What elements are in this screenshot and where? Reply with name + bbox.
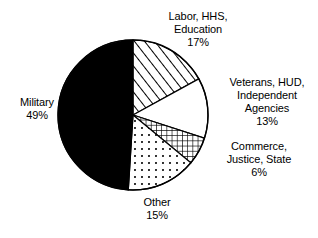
label-percent: 17% <box>152 36 244 49</box>
label-percent: 15% <box>126 209 188 222</box>
slice-label-labor-hhs-education: Labor, HHS, Education 17% <box>152 10 244 49</box>
slice-label-other: Other 15% <box>126 196 188 222</box>
slice-label-military: Military 49% <box>6 96 68 122</box>
slice-label-veterans-hud-independent-agencies: Veterans, HUD, Independent Agencies 13% <box>218 76 316 128</box>
label-percent: 6% <box>206 166 312 179</box>
label-line: Military <box>6 96 68 109</box>
label-line: Independent <box>218 89 316 102</box>
label-line: Veterans, HUD, <box>218 76 316 89</box>
label-percent: 13% <box>218 115 316 128</box>
label-line: Justice, State <box>206 153 312 166</box>
pie-chart-page: Labor, HHS, Education 17% Veterans, HUD,… <box>0 0 318 238</box>
pie-slices <box>58 40 208 190</box>
label-line: Other <box>126 196 188 209</box>
label-line: Agencies <box>218 102 316 115</box>
label-line: Education <box>152 23 244 36</box>
pie-slice-military[interactable] <box>58 40 133 190</box>
label-line: Labor, HHS, <box>152 10 244 23</box>
label-line: Commerce, <box>206 140 312 153</box>
label-percent: 49% <box>6 109 68 122</box>
slice-label-commerce-justice-state: Commerce, Justice, State 6% <box>206 140 312 179</box>
